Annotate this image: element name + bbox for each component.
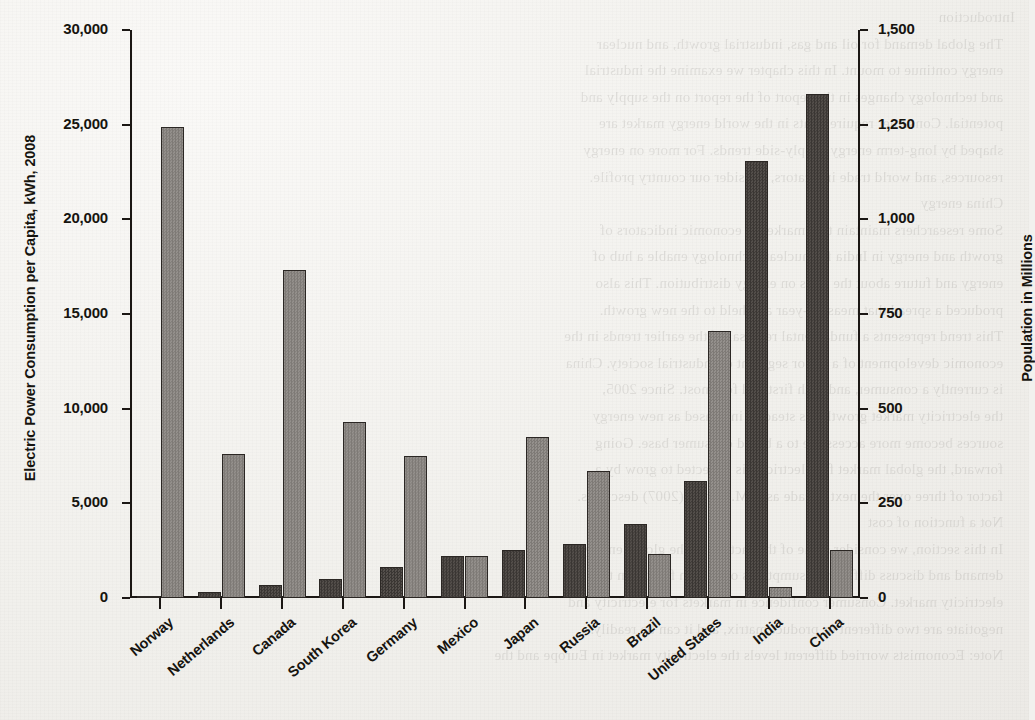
bar-electric-consumption <box>526 437 549 598</box>
bar-electric-consumption <box>769 587 792 598</box>
bar-population <box>137 596 160 598</box>
y-axis-right-tick <box>860 29 868 31</box>
y-axis-right-tick <box>860 313 868 315</box>
x-axis-label: Canada <box>249 614 298 659</box>
y-axis-right-tick <box>860 218 868 220</box>
x-axis-tick <box>646 598 648 609</box>
y-axis-right-tick-label: 1,250 <box>878 115 915 132</box>
bar-group <box>198 30 245 598</box>
y-axis-right-tick-label: 250 <box>878 493 902 510</box>
y-axis-left-line <box>130 30 132 598</box>
x-axis-tick <box>829 598 831 609</box>
plot-area <box>130 30 860 598</box>
x-axis-label: Norway <box>127 614 176 659</box>
y-axis-right-tick-label: 0 <box>878 588 886 605</box>
y-axis-right-tick <box>860 408 868 410</box>
bar-group <box>745 30 792 598</box>
x-axis-label: Mexico <box>434 614 481 657</box>
bar-population <box>806 94 829 598</box>
x-axis-tick <box>585 598 587 609</box>
bar-group <box>563 30 610 598</box>
x-axis-label: Brazil <box>624 614 664 651</box>
y-axis-left-tick <box>122 29 130 31</box>
bar-electric-consumption <box>222 454 245 598</box>
x-axis-tick <box>524 598 526 609</box>
y-axis-left-tick <box>122 313 130 315</box>
bar-population <box>563 544 586 598</box>
y-axis-right-title: Population in Millions <box>1019 48 1035 568</box>
bar-electric-consumption <box>161 127 184 598</box>
bar-population <box>441 556 464 598</box>
y-axis-left-tick-label: 0 <box>0 588 108 605</box>
y-axis-right-tick <box>860 502 868 504</box>
x-axis-label: Netherlands <box>165 614 238 679</box>
x-axis-tick <box>403 598 405 609</box>
bar-group <box>806 30 853 598</box>
y-axis-left-tick-label: 20,000 <box>0 209 108 226</box>
y-axis-left-tick <box>122 408 130 410</box>
bar-group <box>624 30 671 598</box>
bar-electric-consumption <box>830 550 853 598</box>
bar-group <box>441 30 488 598</box>
bar-population <box>198 592 221 598</box>
x-axis-tick <box>464 598 466 609</box>
y-axis-left-tick-label: 25,000 <box>0 115 108 132</box>
bar-electric-consumption <box>587 471 610 598</box>
bar-electric-consumption <box>708 331 731 598</box>
y-axis-right-tick-label: 500 <box>878 399 902 416</box>
x-axis-label: Germany <box>363 614 420 666</box>
bar-group <box>319 30 366 598</box>
y-axis-right-tick <box>860 124 868 126</box>
y-axis-left-tick <box>122 597 130 599</box>
x-axis-tick <box>342 598 344 609</box>
y-axis-right-tick-label: 1,500 <box>878 20 915 37</box>
bar-population <box>745 161 768 598</box>
x-axis-tick <box>159 598 161 609</box>
bar-population <box>380 567 403 598</box>
y-axis-left-tick-label: 15,000 <box>0 304 108 321</box>
x-axis-label: Japan <box>500 614 542 653</box>
y-axis-left-tick-label: 10,000 <box>0 399 108 416</box>
x-axis-label: Russia <box>557 614 603 656</box>
bar-group <box>137 30 184 598</box>
y-axis-right-tick-label: 750 <box>878 304 902 321</box>
bar-electric-consumption <box>404 456 427 598</box>
bar-population <box>259 585 282 598</box>
bar-electric-consumption <box>465 556 488 598</box>
bar-population <box>502 550 525 598</box>
x-axis-label: China <box>805 614 845 652</box>
y-axis-right-tick-label: 1,000 <box>878 209 915 226</box>
bar-group <box>380 30 427 598</box>
y-axis-left-tick <box>122 218 130 220</box>
x-axis-tick <box>707 598 709 609</box>
bar-group <box>259 30 306 598</box>
x-axis-tick <box>220 598 222 609</box>
bar-population <box>319 579 342 598</box>
bar-group <box>502 30 549 598</box>
x-axis-label: India <box>750 614 785 647</box>
y-axis-right-tick <box>860 597 868 599</box>
y-axis-left-tick <box>122 502 130 504</box>
y-axis-left-tick-label: 30,000 <box>0 20 108 37</box>
bar-population <box>684 481 707 598</box>
bar-electric-consumption <box>283 270 306 598</box>
bar-group <box>684 30 731 598</box>
x-axis-tick <box>768 598 770 609</box>
y-axis-left-tick-label: 5,000 <box>0 493 108 510</box>
y-axis-left-tick <box>122 124 130 126</box>
bar-electric-consumption <box>648 554 671 598</box>
bar-electric-consumption <box>343 422 366 598</box>
x-axis-tick <box>281 598 283 609</box>
bar-population <box>624 524 647 598</box>
